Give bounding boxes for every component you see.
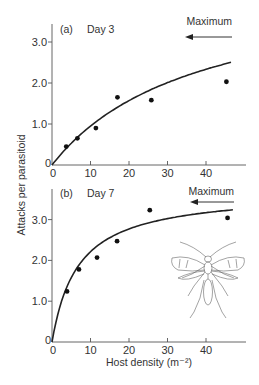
x-tick-label: 30	[161, 167, 173, 179]
parasitoid-wasp-icon	[172, 242, 245, 318]
x-tick-label: 40	[200, 344, 212, 356]
x-ticks: 010203040	[50, 338, 212, 356]
data-point	[95, 255, 100, 260]
x-tick-label: 20	[123, 344, 135, 356]
data-point	[65, 289, 70, 294]
panel-label: (a)	[60, 23, 73, 35]
panel-b: 01.02.03.0 010203040 (b) Day 7 Maximum	[32, 185, 246, 356]
x-tick-label: 30	[161, 344, 173, 356]
y-tick-label: 3.0	[32, 214, 47, 226]
x-tick-label: 0	[50, 167, 56, 179]
data-points	[64, 79, 229, 149]
panel-title: Day 7	[87, 187, 115, 199]
data-point	[75, 136, 80, 141]
y-axis-title: Attacks per parasitoid	[15, 134, 27, 235]
fitted-curve	[52, 210, 233, 342]
fitted-curve	[52, 62, 231, 165]
x-tick-label: 20	[123, 167, 135, 179]
maximum-label: Maximum	[188, 185, 234, 197]
y-ticks: 01.02.03.0	[32, 214, 52, 346]
y-tick-label: 1.0	[32, 295, 47, 307]
panel-a: 01.02.03.0 010203040 (a) Day 3 Maximum	[32, 15, 246, 179]
x-tick-label: 10	[84, 167, 96, 179]
y-tick-label: 3.0	[32, 36, 47, 48]
x-ticks: 010203040	[50, 161, 212, 179]
data-point	[115, 239, 120, 244]
data-point	[224, 79, 229, 84]
y-tick-label: 2.0	[32, 254, 47, 266]
maximum-arrow-icon	[190, 199, 234, 205]
data-point	[64, 144, 69, 149]
y-ticks: 01.02.03.0	[32, 36, 52, 169]
panel-label: (b)	[60, 187, 73, 199]
x-axis-title: Host density (m⁻²)	[106, 356, 192, 368]
maximum-arrow-icon	[185, 34, 232, 40]
x-tick-label: 0	[50, 344, 56, 356]
data-point	[149, 98, 154, 103]
maximum-label: Maximum	[186, 15, 232, 27]
data-point	[77, 267, 82, 272]
x-tick-label: 40	[200, 167, 212, 179]
data-point	[115, 95, 120, 100]
x-tick-label: 10	[84, 344, 96, 356]
data-points	[65, 208, 230, 294]
data-point	[93, 126, 98, 131]
data-point	[147, 208, 152, 213]
panel-title: Day 3	[87, 23, 115, 35]
figure: Attacks per parasitoid 01.02.03.0 010203…	[0, 0, 259, 385]
y-tick-label: 1.0	[32, 118, 47, 130]
y-tick-label: 2.0	[32, 77, 47, 89]
data-point	[225, 216, 230, 221]
